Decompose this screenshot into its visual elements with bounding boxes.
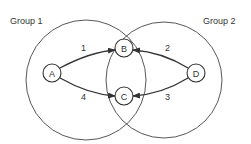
edge-a-b <box>60 50 115 68</box>
node-d-label: D <box>193 69 200 79</box>
group-1-circle <box>26 20 146 140</box>
node-b-label: B <box>121 44 127 54</box>
edge-label-3: 3 <box>165 92 170 102</box>
node-c: C <box>115 87 133 105</box>
node-b: B <box>115 39 133 57</box>
edge-label-1: 1 <box>81 43 86 53</box>
node-d: D <box>187 64 205 82</box>
edge-d-b <box>133 50 188 68</box>
venn-network-diagram: Group 1 Group 2 1 2 3 4 A B C D <box>0 0 251 144</box>
node-a-label: A <box>49 69 55 79</box>
node-c-label: C <box>121 92 128 102</box>
node-a: A <box>43 64 61 82</box>
group-2-label: Group 2 <box>203 16 236 26</box>
edge-label-4: 4 <box>81 92 86 102</box>
edge-d-c <box>133 78 188 96</box>
group-1-label: Group 1 <box>10 16 43 26</box>
edge-label-2: 2 <box>165 43 170 53</box>
